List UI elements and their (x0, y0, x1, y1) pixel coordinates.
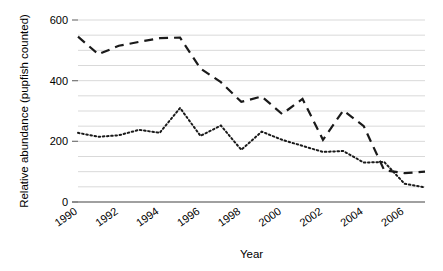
x-tick-label: 1990 (52, 205, 79, 229)
line-chart: 0200400600199019921994199619982000200220… (0, 0, 443, 271)
series-line-dashed-series (78, 37, 425, 174)
y-tick-label: 200 (50, 135, 68, 147)
x-tick-label: 2000 (256, 205, 283, 229)
x-axis-ticks: 199019921994199619982000200220042006 (52, 205, 406, 229)
chart-container: 0200400600199019921994199619982000200220… (0, 0, 443, 271)
x-tick-label: 1998 (216, 205, 243, 229)
y-axis-ticks: 0200400600 (50, 14, 78, 208)
y-tick-label: 400 (50, 75, 68, 87)
x-tick-label: 2002 (297, 205, 324, 229)
x-tick-label: 2006 (379, 205, 406, 229)
y-tick-label: 600 (50, 14, 68, 26)
series-group (78, 37, 425, 188)
x-tick-label: 1992 (93, 205, 120, 229)
y-tick-label: 0 (62, 196, 68, 208)
x-tick-label: 1996 (175, 205, 202, 229)
x-axis-title: Year (240, 248, 263, 260)
x-tick-label: 2004 (338, 205, 365, 229)
x-tick-label: 1994 (134, 205, 161, 229)
y-axis-title: Relative abundance (pupfish counted) (18, 14, 30, 208)
